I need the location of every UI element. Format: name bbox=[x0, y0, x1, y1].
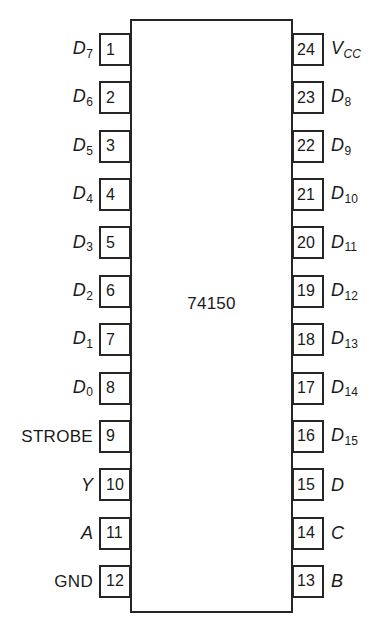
signal-name: D1 bbox=[73, 329, 93, 350]
pin-box-10: 10 bbox=[99, 468, 131, 501]
pin-signal-label-16: D15 bbox=[331, 420, 373, 453]
signal-name: D7 bbox=[73, 39, 93, 60]
pin-number: 12 bbox=[106, 573, 124, 589]
signal-subscript: 10 bbox=[345, 192, 358, 206]
signal-name: GND bbox=[54, 573, 93, 590]
signal-name: D8 bbox=[331, 87, 351, 108]
signal-subscript: CC bbox=[344, 47, 361, 61]
pin-number: 2 bbox=[106, 90, 115, 106]
pin-number: 19 bbox=[297, 283, 315, 299]
pin-number: 7 bbox=[106, 332, 115, 348]
pin-signal-label-18: D13 bbox=[331, 323, 373, 356]
signal-name: STROBE bbox=[21, 428, 93, 445]
pin-number: 15 bbox=[297, 477, 315, 493]
signal-subscript: 15 bbox=[345, 434, 358, 448]
signal-subscript: 8 bbox=[345, 95, 352, 109]
pin-box-8: 8 bbox=[99, 372, 131, 405]
signal-name: D11 bbox=[331, 233, 357, 254]
signal-name: D bbox=[331, 476, 344, 494]
pin-box-24: 24 bbox=[292, 33, 324, 66]
pin-box-7: 7 bbox=[99, 323, 131, 356]
pin-number: 14 bbox=[297, 525, 315, 541]
pin-number: 3 bbox=[106, 138, 115, 154]
pin-signal-label-2: D6 bbox=[0, 81, 93, 114]
pin-number: 5 bbox=[106, 235, 115, 251]
pin-box-22: 22 bbox=[292, 130, 324, 163]
pin-signal-label-20: D11 bbox=[331, 226, 373, 259]
pin-box-5: 5 bbox=[99, 226, 131, 259]
pin-number: 6 bbox=[106, 283, 115, 299]
pin-box-21: 21 bbox=[292, 178, 324, 211]
pin-number: 13 bbox=[297, 573, 315, 589]
pin-signal-label-7: D1 bbox=[0, 323, 93, 356]
ic-pinout-diagram: 74150 1D72D63D54D45D36D27D18D09STROBE10Y… bbox=[0, 0, 373, 627]
pin-signal-label-6: D2 bbox=[0, 275, 93, 308]
pin-box-1: 1 bbox=[99, 33, 131, 66]
pin-number: 8 bbox=[106, 380, 115, 396]
pin-box-16: 16 bbox=[292, 420, 324, 453]
pin-signal-label-1: D7 bbox=[0, 33, 93, 66]
signal-subscript: 12 bbox=[345, 289, 358, 303]
ic-part-number: 74150 bbox=[130, 294, 293, 314]
pin-signal-label-11: A bbox=[0, 517, 93, 550]
signal-name: D3 bbox=[73, 233, 93, 254]
pin-box-2: 2 bbox=[99, 81, 131, 114]
signal-name: D10 bbox=[331, 184, 358, 205]
pin-box-20: 20 bbox=[292, 226, 324, 259]
signal-name: D15 bbox=[331, 426, 358, 447]
pin-box-14: 14 bbox=[292, 517, 324, 550]
pin-signal-label-21: D10 bbox=[331, 178, 373, 211]
pin-number: 17 bbox=[297, 380, 315, 396]
signal-name: D4 bbox=[73, 184, 93, 205]
pin-number: 23 bbox=[297, 90, 315, 106]
signal-name: B bbox=[331, 572, 343, 590]
signal-subscript: 6 bbox=[86, 95, 93, 109]
pin-signal-label-9: STROBE bbox=[0, 420, 93, 453]
pin-box-23: 23 bbox=[292, 81, 324, 114]
signal-subscript: 14 bbox=[345, 385, 358, 399]
pin-signal-label-22: D9 bbox=[331, 130, 373, 163]
pin-signal-label-8: D0 bbox=[0, 372, 93, 405]
signal-name: A bbox=[81, 524, 93, 542]
signal-subscript: 1 bbox=[86, 337, 93, 351]
signal-subscript: 11 bbox=[345, 240, 357, 254]
pin-box-13: 13 bbox=[292, 565, 324, 598]
signal-subscript: 0 bbox=[86, 385, 93, 399]
pin-signal-label-23: D8 bbox=[331, 81, 373, 114]
signal-name: D12 bbox=[331, 281, 358, 302]
signal-name: D9 bbox=[331, 136, 351, 157]
signal-name: D6 bbox=[73, 87, 93, 108]
pin-box-17: 17 bbox=[292, 372, 324, 405]
pin-signal-label-19: D12 bbox=[331, 275, 373, 308]
pin-number: 11 bbox=[106, 525, 123, 541]
pin-box-12: 12 bbox=[99, 565, 131, 598]
signal-subscript: 4 bbox=[86, 192, 93, 206]
pin-number: 9 bbox=[106, 428, 115, 444]
signal-name: D14 bbox=[331, 378, 358, 399]
ic-body-outline bbox=[130, 19, 293, 613]
signal-name: D13 bbox=[331, 329, 358, 350]
pin-number: 18 bbox=[297, 332, 315, 348]
pin-signal-label-5: D3 bbox=[0, 226, 93, 259]
pin-box-15: 15 bbox=[292, 468, 324, 501]
pin-number: 20 bbox=[297, 235, 315, 251]
pin-box-9: 9 bbox=[99, 420, 131, 453]
signal-name: Y bbox=[81, 476, 93, 494]
pin-number: 22 bbox=[297, 138, 315, 154]
signal-subscript: 5 bbox=[86, 144, 93, 158]
pin-signal-label-15: D bbox=[331, 468, 373, 501]
pin-box-18: 18 bbox=[292, 323, 324, 356]
signal-subscript: 9 bbox=[345, 144, 352, 158]
pin-box-19: 19 bbox=[292, 275, 324, 308]
pin-box-6: 6 bbox=[99, 275, 131, 308]
pin-number: 16 bbox=[297, 428, 315, 444]
pin-signal-label-4: D4 bbox=[0, 178, 93, 211]
signal-name: C bbox=[331, 524, 344, 542]
pin-number: 10 bbox=[106, 477, 124, 493]
pin-box-3: 3 bbox=[99, 130, 131, 163]
signal-subscript: 2 bbox=[86, 289, 93, 303]
signal-subscript: 7 bbox=[86, 47, 93, 61]
signal-name: VCC bbox=[331, 39, 361, 60]
pin-signal-label-13: B bbox=[331, 565, 373, 598]
signal-subscript: 13 bbox=[345, 337, 358, 351]
